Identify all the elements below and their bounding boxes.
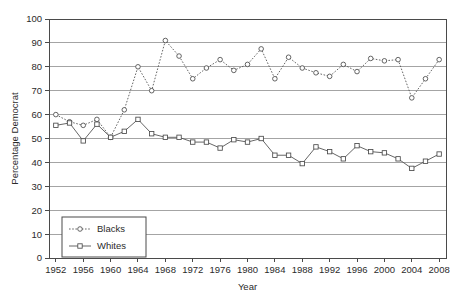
data-point-blacks-1952	[54, 112, 59, 117]
data-point-whites-2006	[423, 159, 427, 163]
data-point-whites-1956	[81, 139, 85, 143]
x-tick-label-1988: 1988	[292, 264, 313, 275]
data-point-blacks-1994	[341, 62, 346, 67]
x-tick-label-1952: 1952	[45, 264, 66, 275]
data-point-blacks-1990	[314, 70, 319, 75]
data-point-blacks-1970	[177, 54, 182, 59]
data-point-blacks-1984	[273, 76, 278, 81]
data-point-whites-2004	[410, 166, 414, 170]
legend-label-whites: Whites	[97, 240, 126, 251]
data-point-whites-1960	[108, 135, 112, 139]
data-point-blacks-2000	[382, 59, 387, 64]
chart-legend: BlacksWhites	[62, 217, 146, 257]
data-point-blacks-1978	[232, 68, 237, 73]
y-tick-label-70: 70	[31, 85, 42, 96]
data-point-whites-1982	[259, 136, 263, 140]
legend-label-blacks: Blacks	[97, 223, 125, 234]
y-tick-label-40: 40	[31, 157, 42, 168]
x-tick-label-1992: 1992	[319, 264, 340, 275]
x-tick-label-1980: 1980	[237, 264, 258, 275]
data-point-blacks-1998	[368, 56, 373, 61]
chart-container: 0102030405060708090100 19521956196019641…	[0, 0, 463, 300]
data-point-whites-1996	[355, 143, 359, 147]
y-tick-label-80: 80	[31, 61, 42, 72]
data-point-whites-1992	[327, 149, 331, 153]
y-axis-label: Percentage Democrat	[9, 92, 20, 185]
legend-marker-whites	[78, 244, 82, 248]
y-tick-label-90: 90	[31, 37, 42, 48]
x-tick-label-1968: 1968	[155, 264, 176, 275]
data-point-whites-1988	[300, 161, 304, 165]
data-point-blacks-1962	[122, 108, 127, 113]
y-tick-label-100: 100	[26, 13, 42, 24]
data-point-blacks-1988	[300, 66, 305, 71]
data-point-blacks-1968	[163, 38, 168, 43]
data-point-whites-1970	[177, 135, 181, 139]
data-point-blacks-1986	[286, 55, 291, 60]
x-tick-label-1972: 1972	[182, 264, 203, 275]
x-tick-label-1960: 1960	[100, 264, 121, 275]
x-tick-label-2008: 2008	[429, 264, 450, 275]
data-point-whites-1952	[54, 123, 58, 127]
series-line-blacks	[56, 41, 439, 138]
x-axis-label: Year	[238, 281, 257, 292]
x-tick-label-1964: 1964	[127, 264, 148, 275]
data-point-blacks-1958	[95, 117, 100, 122]
data-point-whites-2000	[382, 151, 386, 155]
data-point-blacks-1966	[149, 88, 154, 93]
data-point-whites-1958	[95, 122, 99, 126]
data-point-whites-1962	[122, 129, 126, 133]
data-point-blacks-1996	[355, 69, 360, 74]
y-tick-label-20: 20	[31, 205, 42, 216]
y-tick-label-30: 30	[31, 181, 42, 192]
data-point-blacks-2002	[396, 57, 401, 62]
data-point-blacks-1972	[190, 76, 195, 81]
y-tick-label-60: 60	[31, 109, 42, 120]
x-tick-label-2000: 2000	[374, 264, 395, 275]
x-tick-label-1976: 1976	[210, 264, 231, 275]
y-axis-ticks: 0102030405060708090100	[26, 13, 49, 263]
data-point-whites-1978	[232, 138, 236, 142]
data-point-whites-1954	[67, 121, 71, 125]
legend-marker-blacks	[78, 227, 83, 232]
data-point-whites-2008	[437, 152, 441, 156]
x-tick-label-1956: 1956	[73, 264, 94, 275]
data-point-whites-1980	[245, 140, 249, 144]
data-point-whites-1972	[191, 140, 195, 144]
data-point-blacks-1976	[218, 57, 223, 62]
data-point-blacks-2006	[423, 76, 428, 81]
data-point-whites-1990	[314, 145, 318, 149]
data-point-blacks-1982	[259, 47, 264, 52]
data-point-whites-1986	[286, 153, 290, 157]
data-point-whites-1966	[149, 132, 153, 136]
data-point-whites-1984	[273, 153, 277, 157]
y-tick-label-0: 0	[37, 252, 42, 263]
data-point-whites-1974	[204, 140, 208, 144]
data-point-whites-1994	[341, 157, 345, 161]
data-point-whites-1964	[136, 117, 140, 121]
data-point-whites-1976	[218, 146, 222, 150]
x-tick-label-2004: 2004	[401, 264, 422, 275]
data-point-blacks-2004	[409, 96, 414, 101]
y-tick-label-10: 10	[31, 229, 42, 240]
x-axis-ticks: 1952195619601964196819721976198019841988…	[45, 258, 449, 275]
x-tick-label-1996: 1996	[346, 264, 367, 275]
data-point-blacks-2008	[437, 57, 442, 62]
x-tick-label-1984: 1984	[264, 264, 285, 275]
y-tick-label-50: 50	[31, 133, 42, 144]
data-point-whites-1998	[369, 149, 373, 153]
data-point-blacks-1992	[327, 74, 332, 79]
percentage-democrat-line-chart: 0102030405060708090100 19521956196019641…	[0, 0, 463, 300]
data-point-blacks-1956	[81, 123, 86, 128]
data-point-blacks-1964	[136, 65, 141, 70]
data-point-whites-1968	[163, 135, 167, 139]
data-series	[54, 38, 442, 170]
data-point-whites-2002	[396, 157, 400, 161]
data-point-blacks-1980	[245, 62, 250, 67]
data-point-blacks-1974	[204, 66, 209, 71]
